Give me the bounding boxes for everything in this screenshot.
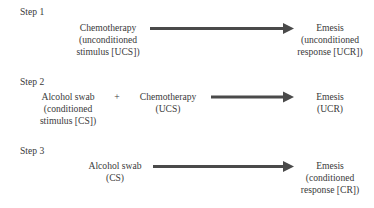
step-1-arrow	[150, 23, 294, 34]
step-3-arrow	[153, 161, 294, 172]
arrows-layer	[0, 0, 374, 208]
step-2-arrow	[211, 92, 294, 103]
